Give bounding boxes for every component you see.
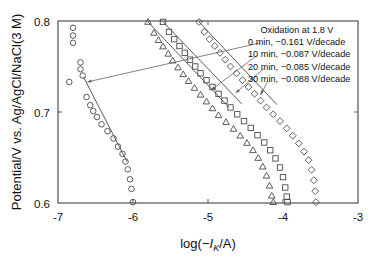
data-point-triangle (191, 85, 198, 91)
data-point-triangle (215, 112, 222, 118)
data-point-triangle (263, 172, 270, 178)
y-tick-labels: 0.60.70.8 (34, 16, 50, 210)
data-point-triangle (223, 119, 230, 125)
legend-entry: 10 min, −0.087 V/decade (248, 49, 350, 59)
data-point-square (273, 156, 278, 161)
plot-border (58, 21, 358, 203)
data-point-triangle (259, 163, 266, 169)
data-point-circle (78, 66, 84, 72)
y-axis-title: Potential/V vs. Ag/AgCl/NaCl(3 M) (9, 14, 24, 211)
tafel-fit-line (148, 22, 229, 108)
data-point-circle (80, 73, 86, 79)
data-point-diamond (257, 97, 264, 104)
data-point-triangle (266, 182, 273, 188)
data-point-circle (84, 94, 90, 100)
data-point-triangle (197, 91, 204, 97)
legend-title: Oxidation at 1.8 V (260, 25, 334, 35)
chart-canvas: -7-6-5-4-3 0.60.70.8 Oxidation at 1.8 V0… (0, 0, 376, 261)
data-point-diamond (295, 140, 302, 147)
data-point-diamond (308, 166, 315, 173)
data-point-square (283, 185, 288, 190)
data-point-diamond (283, 125, 290, 132)
data-point-triangle (160, 43, 167, 49)
data-point-square (182, 50, 187, 55)
data-point-triangle (255, 155, 262, 161)
data-point-diamond (211, 43, 218, 50)
data-point-circle (127, 177, 133, 183)
legend-leader-lines (87, 43, 268, 95)
data-point-diamond (270, 111, 277, 118)
data-point-diamond (313, 199, 320, 206)
x-tick-label: -7 (53, 211, 63, 223)
data-point-circle (87, 102, 93, 108)
data-point-diamond (301, 148, 308, 155)
data-point-square (177, 43, 182, 48)
data-point-square (187, 57, 192, 62)
data-point-triangle (155, 37, 162, 43)
data-point-triangle (237, 132, 244, 138)
data-point-square (172, 37, 177, 42)
legend-entry: 20 min, −0.085 V/decade (248, 62, 350, 72)
data-point-diamond (310, 177, 317, 184)
data-point-diamond (251, 90, 258, 97)
data-point-triangle (203, 98, 210, 104)
figure-container: -7-6-5-4-3 0.60.70.8 Oxidation at 1.8 V0… (0, 0, 376, 261)
legend-entry: 30 min, −0.088 V/decade (248, 74, 350, 84)
data-point-diamond (289, 132, 296, 139)
data-point-circle (66, 79, 72, 85)
data-point-square (277, 165, 282, 170)
y-tick-label: 0.6 (34, 198, 50, 210)
data-point-square (248, 125, 253, 130)
data-point-triangle (230, 126, 237, 132)
data-point-diamond (305, 157, 312, 164)
data-point-circle (129, 186, 135, 192)
axis-ticks (58, 21, 358, 203)
data-point-square (284, 194, 289, 199)
x-tick-label: -3 (353, 211, 363, 223)
data-point-triangle (244, 140, 251, 146)
data-point-square (235, 112, 240, 117)
data-point-triangle (250, 147, 257, 153)
data-point-diamond (222, 56, 229, 63)
data-point-circle (99, 121, 105, 127)
data-point-square (262, 140, 267, 145)
data-point-diamond (239, 77, 246, 84)
data-point-diamond (312, 188, 319, 195)
tafel-fit-line (84, 77, 128, 162)
x-tick-label: -6 (128, 211, 138, 223)
data-point-circle (70, 33, 76, 39)
data-point-triangle (209, 105, 216, 111)
data-point-circle (125, 167, 131, 173)
data-point-triangle (175, 64, 182, 70)
data-point-square (280, 174, 285, 179)
legend-entry: 0 min, −0.161 V/decade (248, 37, 345, 47)
data-point-circle (78, 60, 84, 66)
x-tick-labels: -7-6-5-4-3 (53, 211, 363, 223)
legend-block: Oxidation at 1.8 V0 min, −0.161 V/decade… (248, 25, 350, 84)
data-point-triangle (165, 50, 172, 56)
data-point-diamond (227, 63, 234, 70)
data-point-diamond (245, 84, 252, 91)
data-point-triangle (268, 192, 275, 198)
data-point-triangle (180, 71, 187, 77)
data-point-square (268, 148, 273, 153)
data-point-triangle (185, 78, 192, 84)
y-tick-label: 0.7 (34, 107, 50, 119)
data-point-diamond (263, 104, 270, 111)
data-point-circle (70, 25, 76, 31)
plot-frame (58, 21, 358, 203)
data-point-diamond (206, 36, 213, 43)
axis-titles: log(−IK/A)Potential/V vs. Ag/AgCl/NaCl(3… (9, 14, 236, 253)
data-point-square (255, 133, 260, 138)
data-point-circle (105, 128, 111, 134)
data-point-circle (70, 40, 76, 46)
x-axis-title: log(−IK/A) (180, 236, 236, 253)
x-tick-label: -5 (203, 211, 213, 223)
series-0-min (66, 25, 135, 205)
data-point-circle (94, 114, 100, 120)
x-tick-label: -4 (278, 211, 289, 223)
data-point-square (241, 118, 246, 123)
data-point-square (193, 64, 198, 69)
data-point-square (285, 199, 290, 204)
y-tick-label: 0.8 (34, 16, 50, 28)
